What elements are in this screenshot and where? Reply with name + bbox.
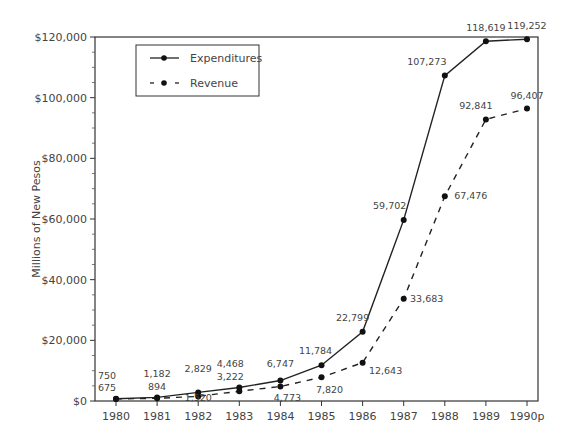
expenditure-value-label: 59,702 <box>373 200 406 211</box>
expenditure-value-label: 750 <box>98 370 116 381</box>
data-point <box>113 396 119 402</box>
y-tick-label: $40,000 <box>42 274 88 287</box>
revenue-value-label: 7,820 <box>316 384 343 395</box>
data-point <box>442 73 448 79</box>
revenue-value-label: 3,222 <box>217 371 244 382</box>
revenue-value-label: 894 <box>148 381 166 392</box>
data-point <box>401 217 407 223</box>
data-point <box>154 395 160 401</box>
expenditure-value-label: 2,829 <box>185 363 212 374</box>
x-tick-label: 1981 <box>143 410 171 423</box>
y-tick-label: $0 <box>73 395 87 408</box>
series-revenue <box>113 106 530 402</box>
revenue-value-label: 675 <box>98 382 116 393</box>
expenditure-value-label: 4,468 <box>217 358 244 369</box>
data-point <box>524 106 530 112</box>
x-tick-label: 1980 <box>102 410 130 423</box>
x-tick-label: 1986 <box>349 410 377 423</box>
data-point <box>524 36 530 42</box>
data-point <box>401 296 407 302</box>
revenue-value-label: 96,407 <box>510 90 543 101</box>
expenditure-value-label: 1,182 <box>143 368 170 379</box>
data-point <box>360 329 366 335</box>
revenue-value-label: 4,773 <box>274 392 301 403</box>
y-axis-ticks: $0$20,000$40,000$60,000$80,000$100,000$1… <box>35 31 96 408</box>
x-tick-label: 1985 <box>308 410 336 423</box>
legend-label-expenditures: Expenditures <box>190 52 263 65</box>
x-axis-ticks: 1980198119821983198419851986198719881989… <box>102 401 545 423</box>
y-tick-label: $20,000 <box>42 334 88 347</box>
data-point <box>277 378 283 384</box>
legend-marker-revenue <box>161 80 167 86</box>
x-tick-label: 1989 <box>472 410 500 423</box>
x-tick-label: 1987 <box>390 410 418 423</box>
x-tick-label: 1982 <box>184 410 212 423</box>
revenue-value-label: 1,520 <box>185 392 212 403</box>
data-point <box>319 362 325 368</box>
data-point <box>483 38 489 44</box>
y-tick-label: $120,000 <box>35 31 88 44</box>
x-tick-label: 1988 <box>431 410 459 423</box>
revenue-value-label: 33,683 <box>410 293 443 304</box>
x-tick-label: 1984 <box>266 410 294 423</box>
data-point <box>483 116 489 122</box>
legend-label-revenue: Revenue <box>190 77 238 90</box>
x-tick-label: 1983 <box>225 410 253 423</box>
revenue-value-label: 92,841 <box>459 100 492 111</box>
y-tick-label: $80,000 <box>42 152 88 165</box>
revenue-value-label: 12,643 <box>369 365 402 376</box>
data-point <box>442 193 448 199</box>
legend-marker-expenditures <box>161 55 167 61</box>
line-chart: Millions of New Pesos $0$20,000$40,000$6… <box>0 0 576 445</box>
legend: Expenditures Revenue <box>136 45 263 96</box>
data-point <box>319 374 325 380</box>
data-point <box>277 384 283 390</box>
revenue-value-label: 67,476 <box>454 190 487 201</box>
x-tick-label: 1990p <box>510 410 545 423</box>
expenditure-value-label: 11,784 <box>299 345 332 356</box>
y-tick-label: $100,000 <box>35 92 88 105</box>
expenditure-value-label: 6,747 <box>267 358 294 369</box>
expenditure-value-label: 107,273 <box>407 56 446 67</box>
expenditure-value-label: 22,799 <box>336 312 369 323</box>
data-point <box>360 360 366 366</box>
data-point <box>236 388 242 394</box>
y-tick-label: $60,000 <box>42 213 88 226</box>
expenditure-value-label: 119,252 <box>507 20 546 31</box>
expenditure-value-label: 118,619 <box>466 22 505 33</box>
